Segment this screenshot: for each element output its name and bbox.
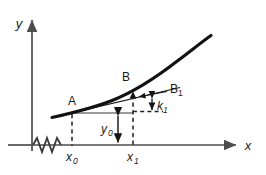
- y0-dimension: y 0: [100, 116, 118, 143]
- figure-canvas: y x A B B 1 y: [0, 0, 266, 175]
- x1-tick-label: x 1: [126, 150, 139, 166]
- point-a-label: A: [68, 94, 76, 108]
- axes-group: [8, 20, 236, 152]
- point-b1-label-subscript: 1: [178, 88, 183, 98]
- tangent-line-diagram: y x A B B 1 y: [0, 0, 266, 175]
- x0-label-base: x: [65, 150, 73, 164]
- y-axis-label: y: [15, 16, 24, 31]
- k1-label-subscript: 1: [163, 105, 168, 115]
- point-b1-label-base: B: [170, 82, 178, 96]
- x0-label-subscript: 0: [73, 156, 78, 166]
- x1-label-base: x: [126, 150, 134, 164]
- k1-dimension: k 1: [152, 99, 168, 116]
- b1-leader-arrow: [139, 92, 167, 97]
- y0-label-subscript: 0: [108, 128, 113, 138]
- point-b1-label: B 1: [170, 82, 183, 98]
- x0-tick-label: x 0: [65, 150, 78, 166]
- y0-label-base: y: [100, 122, 108, 136]
- x1-label-subscript: 1: [134, 156, 139, 166]
- point-b-label: B: [122, 70, 130, 84]
- x-axis-label: x: [244, 138, 252, 153]
